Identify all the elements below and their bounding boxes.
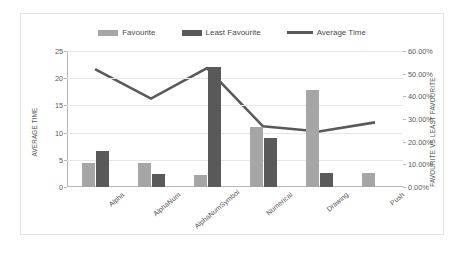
- y-axis-left-tick: 10: [23, 128, 63, 137]
- bar-least-favourite: [264, 138, 277, 187]
- y-axis-right-tick-mark: [403, 96, 406, 97]
- bar-least-favourite: [320, 173, 333, 187]
- y-axis-left-tick-mark: [64, 160, 67, 161]
- y-axis-left-tick-mark: [64, 78, 67, 79]
- legend-swatch-icon: [182, 30, 202, 36]
- legend-item-2[interactable]: Average Time: [287, 28, 366, 37]
- y-axis-right-tick-mark: [403, 187, 406, 188]
- y-axis-right-tick-mark: [403, 74, 406, 75]
- bar-favourite: [138, 163, 151, 187]
- legend-line-icon: [287, 31, 313, 34]
- y-axis-left-tick-mark: [64, 105, 67, 106]
- y-axis-left-tick: 20: [23, 74, 63, 83]
- bar-favourite: [306, 90, 319, 187]
- gridline: [67, 51, 403, 52]
- y-axis-left-tick: 25: [23, 47, 63, 56]
- bar-least-favourite: [96, 151, 109, 187]
- x-axis-category-label: Numerical: [249, 191, 293, 230]
- plot-area: 05101520250.00%10.00%20.00%30.00%40.00%5…: [67, 51, 403, 187]
- y-axis-right-tick: 20.00%: [408, 137, 454, 146]
- y-axis-left-tick: 0: [23, 183, 63, 192]
- x-axis-category-label: Alpha: [81, 191, 125, 230]
- y-axis-right-tick: 10.00%: [408, 160, 454, 169]
- y-axis-right-tick: 40.00%: [408, 92, 454, 101]
- average-time-line-series: [67, 51, 403, 187]
- gridline: [67, 160, 403, 161]
- y-axis-right-tick-mark: [403, 142, 406, 143]
- chart-container: FavouriteLeast FavouriteAverage Time AVE…: [20, 13, 444, 235]
- legend-item-1[interactable]: Least Favourite: [182, 28, 261, 37]
- bar-favourite: [194, 175, 207, 188]
- y-axis-right-tick-mark: [403, 164, 406, 165]
- y-axis-right-tick: 60.00%: [408, 47, 454, 56]
- bar-favourite: [250, 127, 263, 187]
- legend-label: Favourite: [122, 28, 155, 37]
- y-axis-right-tick: 50.00%: [408, 69, 454, 78]
- legend-label: Average Time: [317, 28, 366, 37]
- chart-legend: FavouriteLeast FavouriteAverage Time: [21, 28, 443, 37]
- gridline: [67, 105, 403, 106]
- y-axis-left-tick: 15: [23, 101, 63, 110]
- y-axis-right-tick-mark: [403, 119, 406, 120]
- bar-least-favourite: [208, 67, 221, 187]
- x-axis-category-label: AlphaNumSymbol: [193, 191, 237, 230]
- bar-favourite: [362, 173, 375, 187]
- y-axis-right-tick: 30.00%: [408, 115, 454, 124]
- x-axis-category-label: AlphaNum: [137, 191, 181, 230]
- y-axis-right-tick-mark: [403, 51, 406, 52]
- bar-least-favourite: [152, 174, 165, 187]
- x-axis-category-label: Drawing: [305, 191, 349, 230]
- y-axis-right-tick: 0.00%: [408, 183, 454, 192]
- y-axis-left-tick-mark: [64, 187, 67, 188]
- bar-favourite: [82, 163, 95, 187]
- y-axis-left-tick-mark: [64, 133, 67, 134]
- y-axis-left-tick: 5: [23, 155, 63, 164]
- legend-label: Least Favourite: [206, 28, 261, 37]
- legend-swatch-icon: [98, 30, 118, 36]
- x-axis-category-label: Push: [361, 191, 405, 230]
- legend-item-0[interactable]: Favourite: [98, 28, 155, 37]
- gridline: [67, 133, 403, 134]
- y-axis-left-tick-mark: [64, 51, 67, 52]
- gridline: [67, 78, 403, 79]
